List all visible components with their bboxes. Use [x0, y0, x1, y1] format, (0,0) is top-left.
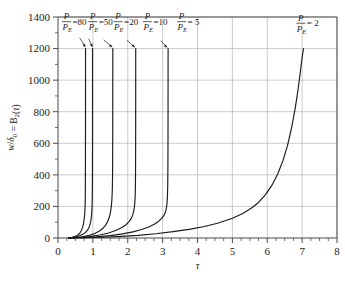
x-tick-label: 3	[160, 245, 166, 257]
x-tick-label: 5	[230, 245, 236, 257]
annotation-value: =20	[124, 17, 139, 27]
y-tick-label: 1400	[28, 11, 51, 23]
x-axis-title: τ	[196, 260, 200, 271]
annotation-value: =10	[153, 17, 168, 27]
x-tick-label: 6	[265, 245, 271, 257]
annotation-numerator: P	[63, 11, 70, 21]
y-tick-label: 200	[34, 200, 51, 212]
x-tick-label: 1	[90, 245, 96, 257]
annotation-value: = 2	[307, 18, 319, 28]
x-tick-label: 0	[55, 245, 61, 257]
chart-background	[0, 0, 345, 284]
y-tick-label: 0	[45, 232, 51, 244]
annotation-numerator: P	[114, 11, 121, 21]
annotation-numerator: P	[178, 11, 185, 21]
y-tick-label: 600	[34, 137, 51, 149]
x-tick-label: 7	[299, 245, 305, 257]
annotation-value: = 5	[188, 17, 200, 27]
annotation-value: =80	[72, 17, 87, 27]
x-tick-label: 4	[195, 245, 201, 257]
y-tick-label: 800	[34, 106, 51, 118]
y-tick-label: 1000	[28, 74, 51, 86]
x-tick-label: 2	[125, 245, 131, 257]
y-tick-label: 1200	[28, 42, 51, 54]
annotation-numerator: P	[297, 13, 304, 23]
y-tick-label: 400	[34, 169, 51, 181]
annotation-numerator: P	[89, 11, 96, 21]
chart-svg: 012345678 0200400600800100012001400 PPE=…	[0, 0, 345, 284]
x-tick-label: 8	[334, 245, 340, 257]
annotation-value: =50	[99, 17, 114, 27]
chart-figure: 012345678 0200400600800100012001400 PPE=…	[0, 0, 345, 284]
annotation-numerator: P	[144, 11, 151, 21]
